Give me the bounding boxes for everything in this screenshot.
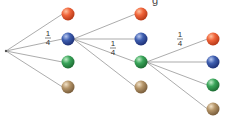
orange-ball-level-2 (135, 8, 148, 21)
fraction-numerator: 1 (111, 39, 116, 48)
probability-label-3: 14 (177, 30, 183, 48)
root-node (5, 50, 7, 52)
branch-line-2-tan (74, 39, 136, 87)
probability-tree: g 141414 (0, 0, 232, 119)
tan-ball-level-1 (62, 81, 75, 94)
branch-lines (6, 14, 208, 109)
fraction-denominator: 4 (178, 39, 183, 48)
probability-label-1: 14 (45, 29, 51, 47)
blue-ball-level-1 (62, 33, 75, 46)
branch-line-1-orange (6, 14, 63, 51)
green-ball-level-1 (62, 56, 75, 69)
blue-ball-level-2 (135, 33, 148, 46)
branch-line-3-green (147, 62, 208, 85)
green-ball-level-2 (135, 56, 148, 69)
branch-line-2-green (74, 39, 136, 62)
orange-ball-level-3 (207, 33, 220, 46)
branch-line-2-orange (74, 14, 136, 39)
fraction-denominator: 4 (46, 38, 51, 47)
tan-ball-level-3 (207, 103, 220, 116)
fraction-numerator: 1 (178, 30, 183, 39)
fraction-denominator: 4 (111, 48, 116, 57)
branch-line-1-blue (6, 39, 63, 51)
title-fragment: g (152, 0, 158, 6)
green-ball-level-3 (207, 79, 220, 92)
orange-ball-level-1 (62, 8, 75, 21)
branch-line-3-tan (147, 62, 208, 109)
probability-label-2: 14 (110, 39, 116, 57)
blue-ball-level-3 (207, 56, 220, 69)
tan-ball-level-2 (135, 81, 148, 94)
fraction-numerator: 1 (46, 29, 51, 38)
